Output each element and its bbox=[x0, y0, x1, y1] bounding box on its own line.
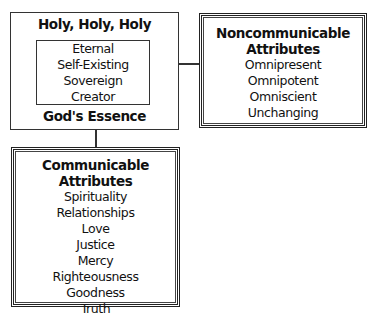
noncommunicable-item: Omnipresent bbox=[202, 57, 364, 73]
noncommunicable-item: Unchanging bbox=[202, 105, 364, 121]
essence-item: Eternal bbox=[37, 41, 149, 57]
connector-essence-to-noncommunicable bbox=[179, 63, 200, 65]
essence-inner-box: Eternal Self-Existing Sovereign Creator bbox=[36, 40, 150, 105]
communicable-item: Justice bbox=[14, 237, 177, 253]
communicable-item: Love bbox=[14, 221, 177, 237]
essence-item: Creator bbox=[37, 89, 149, 105]
noncommunicable-item: Omniscient bbox=[202, 89, 364, 105]
communicable-item: Mercy bbox=[14, 253, 177, 269]
noncommunicable-title-line1: Noncommunicable bbox=[202, 25, 364, 41]
noncommunicable-title-line2: Attributes bbox=[202, 41, 364, 57]
noncommunicable-attributes-box: Noncommunicable Attributes Omnipresent O… bbox=[199, 13, 367, 128]
communicable-item: Spirituality bbox=[14, 189, 177, 205]
communicable-item: Goodness bbox=[14, 285, 177, 301]
essence-item: Self-Existing bbox=[37, 57, 149, 73]
essence-footer: God's Essence bbox=[11, 108, 178, 124]
connector-essence-to-communicable bbox=[95, 130, 97, 147]
communicable-item: Righteousness bbox=[14, 269, 177, 285]
communicable-attributes-box: Communicable Attributes Spirituality Rel… bbox=[11, 147, 180, 307]
essence-title: Holy, Holy, Holy bbox=[11, 16, 178, 32]
noncommunicable-item: Omnipotent bbox=[202, 73, 364, 89]
communicable-item: Truth bbox=[14, 301, 177, 317]
gods-essence-box: Holy, Holy, Holy Eternal Self-Existing S… bbox=[10, 12, 179, 130]
essence-item: Sovereign bbox=[37, 73, 149, 89]
communicable-title: Communicable Attributes bbox=[14, 157, 177, 189]
communicable-item: Relationships bbox=[14, 205, 177, 221]
